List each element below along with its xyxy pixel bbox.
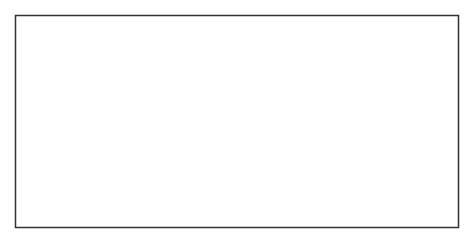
fan-out-diagram — [0, 0, 472, 243]
